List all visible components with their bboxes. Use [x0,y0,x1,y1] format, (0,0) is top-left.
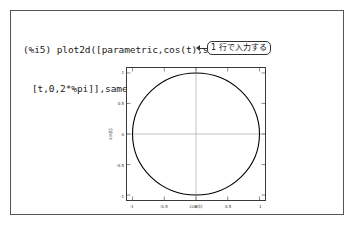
annotation-label: 1 行で入力する [207,41,271,55]
left-arrow-icon [196,44,207,53]
ytick-label: -1 [114,194,124,199]
x-axis-title: cos(t) [190,204,203,209]
output-panel: (%i5) plot2d([parametric,cos(t),sin(t), … [10,10,344,215]
xtick-label: 1 [259,204,262,209]
plot-canvas [127,68,265,200]
ytick-label: -0.5 [114,163,124,168]
ytick-label: 0.5 [114,101,124,106]
ytick-label: 0 [114,132,124,137]
plot-figure: -1 -0.5 0 0.5 1 1 0.5 0 -0.5 -1 cos(t) s… [106,59,281,211]
xtick-label: 0.5 [225,204,231,209]
y-axis-title: sin(t) [108,128,113,140]
command-line-1: (%i5) plot2d([parametric,cos(t),sin(t), [23,43,323,56]
xtick-label: -1 [130,204,134,209]
plot-frame [126,67,266,201]
ytick-label: 1 [114,70,124,75]
annotation-callout: 1 行で入力する [196,41,271,55]
xtick-label: -0.5 [160,204,168,209]
